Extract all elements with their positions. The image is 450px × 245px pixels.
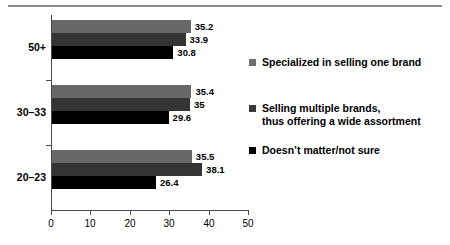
bar-50plus-series1 [52, 33, 186, 46]
top-divider [8, 5, 442, 7]
y-axis-tick [46, 80, 51, 81]
x-axis-tick [209, 210, 210, 215]
legend-label-1-line1: Selling multiple brands, [262, 102, 380, 114]
bar-30-33-series1 [52, 98, 190, 111]
legend-label-1: Selling multiple brands, thus offering a… [262, 102, 421, 128]
bar-label-50plus-series2: 30.8 [177, 47, 196, 58]
x-axis-tick [51, 210, 52, 215]
legend-swatch-icon-1 [249, 105, 256, 112]
bar-50plus-series2 [52, 46, 173, 59]
x-tick-label-10: 10 [75, 218, 105, 230]
x-axis-tick [90, 210, 91, 215]
y-axis-tick [46, 145, 51, 146]
legend-item-0[interactable]: Specialized in selling one brand [249, 56, 421, 69]
x-axis-tick [248, 210, 249, 215]
plot-area: 0 10 20 30 40 50 35.2 33.9 30.8 35.4 35 … [51, 15, 248, 210]
x-tick-label-0: 0 [36, 218, 66, 230]
bar-20-23-series1 [52, 163, 202, 176]
legend-swatch-icon-2 [249, 147, 256, 154]
category-label-30-33: 30–33 [0, 106, 46, 118]
bar-label-50plus-series0: 35.2 [195, 21, 214, 32]
x-tick-label-20: 20 [115, 218, 145, 230]
legend-swatch-icon-0 [249, 59, 256, 66]
bar-chart: 0 10 20 30 40 50 35.2 33.9 30.8 35.4 35 … [0, 0, 450, 245]
bar-50plus-series0 [52, 20, 191, 33]
x-axis-tick [130, 210, 131, 215]
bar-label-30-33-series2: 29.6 [173, 112, 192, 123]
bar-30-33-series2 [52, 111, 169, 124]
bar-label-20-23-series0: 35.5 [196, 151, 215, 162]
bar-label-20-23-series2: 26.4 [160, 177, 179, 188]
bar-20-23-series0 [52, 150, 192, 163]
legend-label-1-line2: thus offering a wide assortment [262, 115, 421, 128]
legend-label-0: Specialized in selling one brand [262, 56, 421, 69]
bar-label-30-33-series1: 35 [194, 99, 205, 110]
x-tick-label-40: 40 [194, 218, 224, 230]
bar-label-30-33-series0: 35.4 [195, 86, 214, 97]
bar-label-50plus-series1: 33.9 [190, 34, 209, 45]
bar-20-23-series2 [52, 176, 156, 189]
bar-label-20-23-series1: 38.1 [206, 164, 225, 175]
category-label-50plus: 50+ [0, 41, 46, 53]
legend-label-2: Doesn’t matter/not sure [262, 144, 380, 157]
category-label-20-23: 20–23 [0, 171, 46, 183]
legend-item-1[interactable]: Selling multiple brands, thus offering a… [249, 102, 421, 128]
x-axis-line [51, 210, 248, 211]
x-axis-tick [169, 210, 170, 215]
legend-item-2[interactable]: Doesn’t matter/not sure [249, 144, 380, 157]
bar-30-33-series0 [52, 85, 191, 98]
x-tick-label-30: 30 [154, 218, 184, 230]
x-tick-label-50: 50 [233, 218, 263, 230]
